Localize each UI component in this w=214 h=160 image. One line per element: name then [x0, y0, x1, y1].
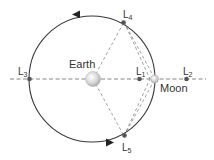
l5-label: L5	[122, 142, 132, 154]
l1-label: L1	[136, 66, 146, 78]
lagrange-diagram: Earth Moon L1 L2 L3 L4 L5	[0, 0, 214, 160]
moon-label: Moon	[160, 82, 188, 94]
l5-point-icon	[122, 133, 127, 138]
l3-point-icon	[27, 77, 32, 82]
l4-label: L4	[123, 9, 133, 21]
l4-point-icon	[121, 20, 126, 25]
l3-label: L3	[18, 66, 28, 78]
orbit-arrow-top-icon	[72, 11, 80, 19]
earth-icon	[86, 72, 101, 87]
moon-icon	[151, 75, 159, 83]
l2-label: L2	[183, 66, 193, 78]
earth-label: Earth	[69, 58, 95, 70]
diagram-canvas: Earth Moon L1 L2 L3 L4 L5	[0, 0, 214, 160]
